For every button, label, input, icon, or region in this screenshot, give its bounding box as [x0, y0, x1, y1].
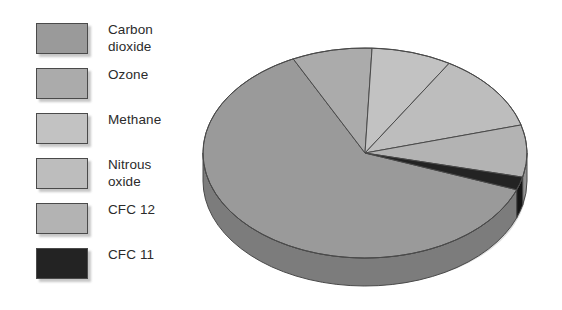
legend-swatch-fill [36, 248, 88, 279]
legend-swatch-fill [36, 113, 88, 144]
pie-slice-top-2 [293, 48, 372, 153]
pie-slice-side-6 [517, 177, 523, 218]
legend-item[interactable]: Carbon dioxide [36, 22, 196, 67]
legend-swatch-nitrous-oxide [36, 158, 88, 189]
legend-swatch-fill [36, 68, 88, 99]
legend-item-label: CFC 11 [108, 247, 154, 264]
legend-item-label: CFC 12 [108, 202, 155, 219]
legend-swatch-carbon-dioxide [36, 23, 88, 54]
legend-item[interactable]: Methane [36, 112, 196, 157]
legend-swatch-methane [36, 113, 88, 144]
pie-slice-top-1 [203, 59, 517, 258]
pie-chart-figure: Carbon dioxide Ozone Methane Nitrous oxi… [0, 0, 562, 310]
pie-slice-top-3 [365, 48, 449, 153]
pie-slice-top-6 [365, 153, 523, 190]
legend-item[interactable]: Ozone [36, 67, 196, 112]
pie-slice-top-4 [365, 63, 521, 153]
legend-item-label: Nitrous oxide [108, 157, 151, 190]
legend-item[interactable]: CFC 12 [36, 202, 196, 247]
pie-slice-side-1 [203, 153, 517, 286]
legend-swatch-fill [36, 203, 88, 234]
pie-top-rim-outline [203, 48, 527, 258]
legend-item[interactable]: Nitrous oxide [36, 157, 196, 202]
pie-slice-side-5 [523, 153, 527, 205]
legend-swatch-cfc-11 [36, 248, 88, 279]
legend-item-label: Ozone [108, 67, 148, 84]
legend-swatch-fill [36, 158, 88, 189]
legend-item-label: Carbon dioxide [108, 22, 153, 55]
legend-swatch-fill [36, 23, 88, 54]
pie-drop-shadow [215, 89, 526, 284]
legend-item-label: Methane [108, 112, 161, 129]
legend-item[interactable]: CFC 11 [36, 247, 196, 292]
legend-swatch-ozone [36, 68, 88, 99]
pie-slice-top-5 [365, 125, 527, 177]
legend-swatch-cfc-12 [36, 203, 88, 234]
chart-legend: Carbon dioxide Ozone Methane Nitrous oxi… [36, 22, 196, 292]
